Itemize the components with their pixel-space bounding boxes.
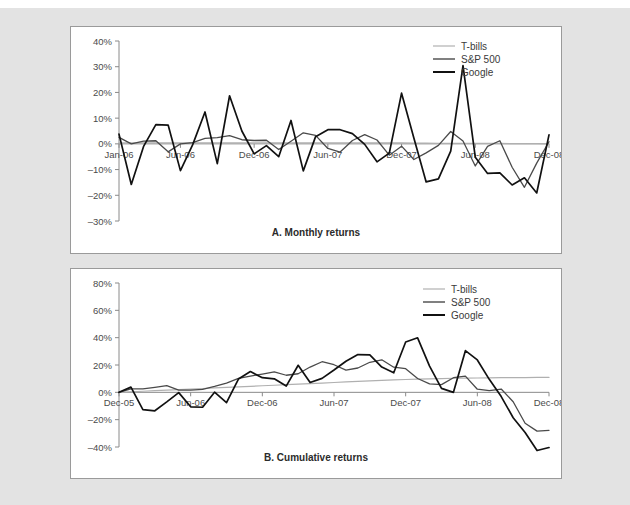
legend-label-t-bills: T-bills	[461, 41, 487, 52]
legend-label-t-bills: T-bills	[451, 284, 477, 295]
x-tick-label: Jan-06	[104, 149, 133, 160]
x-tick-label: Dec-06	[247, 397, 278, 408]
y-tick-label: 40%	[93, 36, 113, 47]
panel-a-caption: A. Monthly returns	[71, 227, 561, 238]
x-tick-label: Dec-08	[534, 149, 561, 160]
x-tick-label: Jun-07	[313, 149, 342, 160]
y-tick-label: –10%	[88, 164, 113, 175]
y-tick-label: –20%	[88, 414, 113, 425]
series-line-google	[119, 66, 549, 193]
monthly-returns-plot: 40%30%20%10%0%–10%–20%–30%Jan-06Jun-06De…	[71, 27, 561, 253]
cumulative-returns-plot: 80%60%40%20%0%–20%–40%Dec-05Jun-06Dec-06…	[71, 269, 561, 478]
x-tick-label: Dec-08	[534, 397, 561, 408]
x-tick-label: Jun-07	[319, 397, 348, 408]
y-tick-label: 0%	[98, 138, 112, 149]
legend-label-s-p-500: S&P 500	[461, 54, 501, 65]
y-tick-label: 80%	[93, 278, 113, 289]
y-tick-label: 10%	[93, 113, 113, 124]
y-tick-label: –30%	[88, 216, 113, 227]
x-tick-label: Jun-08	[463, 397, 492, 408]
chart-panel-cumulative-returns: 80%60%40%20%0%–20%–40%Dec-05Jun-06Dec-06…	[70, 268, 562, 479]
y-tick-label: 60%	[93, 305, 113, 316]
legend-label-s-p-500: S&P 500	[451, 297, 491, 308]
panel-b-caption: B. Cumulative returns	[71, 452, 561, 463]
legend-label-google: Google	[451, 310, 484, 321]
chart-panel-monthly-returns: 40%30%20%10%0%–10%–20%–30%Jan-06Jun-06De…	[70, 26, 562, 254]
y-tick-label: 20%	[93, 360, 113, 371]
y-tick-label: –20%	[88, 190, 113, 201]
page-top-strip	[0, 0, 630, 8]
legend-label-google: Google	[461, 67, 494, 78]
y-tick-label: 40%	[93, 332, 113, 343]
x-tick-label: Dec-05	[104, 397, 135, 408]
x-tick-label: Dec-07	[390, 397, 421, 408]
figure-page: { "figure": { "background_color": "#e3e3…	[0, 0, 630, 505]
y-tick-label: 0%	[98, 387, 112, 398]
y-tick-label: 30%	[93, 61, 113, 72]
y-tick-label: 20%	[93, 87, 113, 98]
y-tick-label: –40%	[88, 442, 113, 453]
